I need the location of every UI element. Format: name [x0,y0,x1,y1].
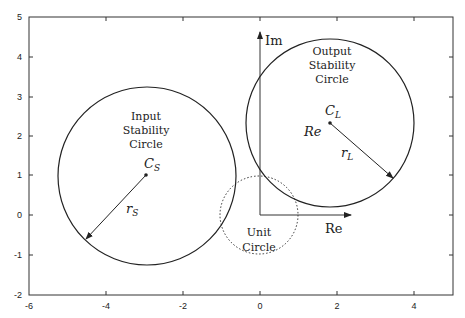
input-center-label: CS [144,156,160,173]
y-tick-label: 3 [17,92,22,102]
y-tick-label: -1 [14,250,22,260]
y-tick-label: 1 [17,170,22,180]
unit-circle-label: Circle [242,241,275,254]
stability-circles-diagram: -6 -4 -2 0 2 4 5 4 3 2 1 0 -1 -2 Re Im U… [0,0,465,318]
im-axis-label: Im [265,33,282,48]
output-circle-label: Output [312,45,352,58]
plot-frame [29,17,453,295]
y-tick-label: 2 [17,131,22,141]
input-circle-label: Input [131,110,162,123]
x-tick-label: 0 [257,301,262,311]
y-tick-label: 0 [17,210,22,220]
y-axis-ticks [29,57,453,255]
output-center-label: CL [325,103,341,120]
x-tick-label: 4 [411,301,416,311]
re-axis-label: Re [325,221,343,236]
output-circle-label: Circle [315,73,348,86]
input-circle-label: Stability [123,124,171,137]
y-tick-label: 4 [17,52,22,62]
output-radius-arrow [330,123,393,178]
output-re-label: Re [303,124,322,139]
x-tick-label: -6 [25,301,33,311]
x-tick-label: -2 [179,301,187,311]
y-tick-label: 5 [17,12,22,22]
x-tick-label: -4 [102,301,110,311]
x-tick-label: 2 [334,301,339,311]
output-radius-label: rL [341,145,353,162]
input-radius-arrow [86,175,146,239]
output-circle-label: Stability [309,59,357,72]
unit-circle-label: Unit [247,226,272,239]
y-tick-label: -2 [14,290,22,300]
input-circle-label: Circle [129,138,162,151]
input-radius-label: rS [126,201,138,218]
